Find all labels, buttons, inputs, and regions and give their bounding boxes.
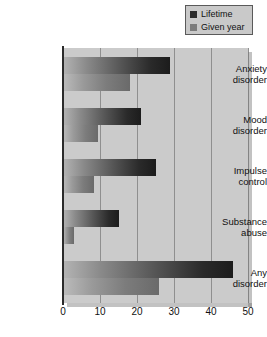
bar-lifetime (63, 57, 170, 74)
category-label-line1: Substance (209, 216, 267, 227)
bar-given-year (63, 176, 94, 193)
legend-swatch-given-year (190, 24, 197, 31)
chart-legend: Lifetime Given year (185, 5, 253, 35)
category-label-line2: control (209, 176, 267, 187)
category-label: Impulsecontrol (209, 165, 267, 187)
bar-lifetime (63, 210, 119, 227)
legend-item-lifetime: Lifetime (190, 8, 252, 20)
x-tick-label: 40 (199, 306, 223, 317)
category-label: Mooddisorder (209, 114, 267, 136)
bar-chart-figure: Lifetime Given year AnxietydisorderMoodd… (0, 0, 267, 337)
x-tick-label: 20 (125, 306, 149, 317)
category-label-line1: Any (209, 267, 267, 278)
x-tick-label: 10 (88, 306, 112, 317)
bar-given-year (63, 227, 74, 244)
bar-lifetime (63, 159, 156, 176)
category-label-line1: Impulse (209, 165, 267, 176)
category-label-line2: disorder (209, 74, 267, 85)
category-label-line1: Anxiety (209, 63, 267, 74)
category-label-line2: abuse (209, 227, 267, 238)
legend-swatch-lifetime (190, 11, 197, 18)
bar-lifetime (63, 108, 141, 125)
bar-given-year (63, 125, 98, 142)
category-label-line2: disorder (209, 125, 267, 136)
legend-label-given-year: Given year (201, 22, 245, 32)
category-label-line1: Mood (209, 114, 267, 125)
bar-given-year (63, 278, 159, 295)
y-axis-line (62, 46, 64, 305)
category-label: Anydisorder (209, 267, 267, 289)
legend-label-lifetime: Lifetime (201, 9, 233, 19)
bar-given-year (63, 74, 130, 91)
category-label: Substanceabuse (209, 216, 267, 238)
legend-item-given-year: Given year (190, 21, 252, 33)
x-tick-label: 50 (236, 306, 260, 317)
bar-lifetime (63, 261, 233, 278)
category-label: Anxietydisorder (209, 63, 267, 85)
x-tick-label: 0 (51, 306, 75, 317)
x-tick-label: 30 (162, 306, 186, 317)
category-label-line2: disorder (209, 278, 267, 289)
